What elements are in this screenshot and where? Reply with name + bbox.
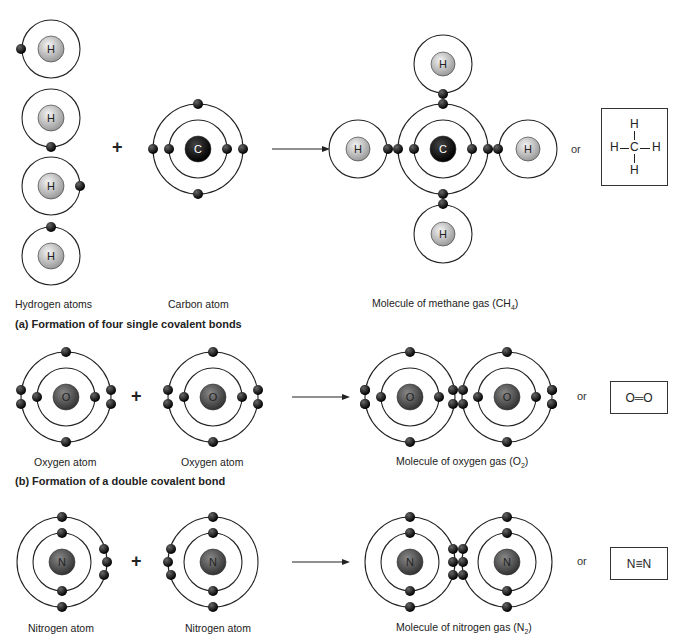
electron [405, 437, 415, 447]
electron [46, 142, 56, 152]
electron [393, 144, 403, 154]
svg-text:H: H [439, 58, 447, 70]
electron [57, 512, 67, 522]
svg-text:H: H [47, 112, 55, 124]
electron [179, 392, 189, 402]
nitrogen-atom-label-2: Nitrogen atom [185, 622, 251, 634]
oxygen-atom-label-2: Oxygen atom [181, 456, 243, 468]
electron [438, 99, 448, 109]
svg-text:C: C [194, 143, 202, 155]
formula-c: C [630, 140, 639, 154]
electron [448, 570, 458, 580]
oxygen-atom-label-1: Oxygen atom [34, 456, 96, 468]
electron [360, 399, 370, 409]
electron [448, 557, 458, 567]
electron [547, 399, 557, 409]
electron [383, 144, 393, 154]
electron [502, 528, 512, 538]
nitrogen-formula-box: N≡N [610, 547, 668, 580]
electron [458, 385, 468, 395]
electron [61, 347, 71, 357]
svg-text:N: N [406, 556, 414, 568]
or-text-a: or [571, 143, 581, 155]
carbon-atom-label: Carbon atom [168, 298, 229, 310]
electron [238, 144, 248, 154]
or-text-c: or [577, 555, 587, 567]
or-text-b: or [577, 390, 587, 402]
svg-text:H: H [47, 250, 55, 262]
electron [99, 544, 109, 554]
electron [438, 199, 448, 209]
caption-a: (a) Formation of four single covalent bo… [15, 318, 242, 330]
electron [458, 570, 468, 580]
electron [57, 602, 67, 612]
formula-h-top: H [630, 117, 639, 131]
formula-h-right: H [652, 140, 661, 154]
electron [208, 602, 218, 612]
plus-sign-a: + [112, 137, 123, 158]
electron [473, 392, 483, 402]
svg-text:N: N [58, 556, 66, 568]
covalent-bond-diagram: HHHHCCHHHHOOOONNNN + or H H C H H Hydrog… [0, 0, 685, 644]
electron [208, 512, 218, 522]
electron [164, 144, 174, 154]
svg-text:H: H [47, 180, 55, 192]
electron [405, 528, 415, 538]
methane-structural-formula: H H C H H [601, 108, 668, 186]
electron [502, 586, 512, 596]
electron [163, 557, 173, 567]
electron [193, 189, 203, 199]
electron [32, 392, 42, 402]
electron [405, 512, 415, 522]
electron [493, 144, 503, 154]
electron [16, 44, 26, 54]
electron [502, 602, 512, 612]
electron [448, 385, 458, 395]
electron [99, 570, 109, 580]
electron [166, 570, 176, 580]
electron [360, 385, 370, 395]
electron [57, 586, 67, 596]
electron [16, 399, 26, 409]
svg-text:H: H [47, 43, 55, 55]
electron [502, 347, 512, 357]
methane-label: Molecule of methane gas (CH4) [372, 297, 518, 311]
electron [208, 528, 218, 538]
electron [483, 144, 493, 154]
nitrogen-atom-label-1: Nitrogen atom [28, 622, 94, 634]
electron [467, 144, 477, 154]
electron [458, 399, 468, 409]
electron [405, 602, 415, 612]
electron [405, 586, 415, 596]
electron [102, 557, 112, 567]
electron [502, 512, 512, 522]
electron [163, 399, 173, 409]
oxygen-formula-box: O═O [610, 381, 668, 414]
electron [409, 144, 419, 154]
electron [163, 385, 173, 395]
electron [448, 544, 458, 554]
electron [253, 399, 263, 409]
electron [222, 144, 232, 154]
electron [208, 347, 218, 357]
svg-text:O: O [209, 391, 218, 403]
electron [106, 385, 116, 395]
svg-text:O: O [406, 391, 415, 403]
plus-sign-b: + [131, 386, 142, 407]
electron [547, 385, 557, 395]
nitrogen-molecule-label: Molecule of nitrogen gas (N2) [396, 621, 532, 635]
plus-sign-c: + [131, 551, 142, 572]
svg-text:O: O [503, 391, 512, 403]
svg-text:H: H [354, 143, 362, 155]
electron [208, 586, 218, 596]
svg-text:H: H [524, 143, 532, 155]
electron [438, 89, 448, 99]
hydrogen-atoms-label: Hydrogen atoms [15, 298, 92, 310]
electron [193, 99, 203, 109]
electron [46, 222, 56, 232]
electron [16, 385, 26, 395]
electron [166, 544, 176, 554]
electron [106, 399, 116, 409]
electron [458, 557, 468, 567]
electron [148, 144, 158, 154]
